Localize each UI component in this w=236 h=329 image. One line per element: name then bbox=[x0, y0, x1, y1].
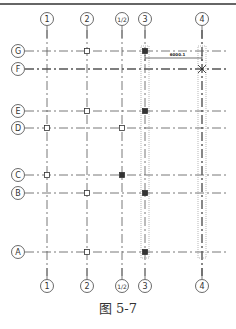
selected-column-highlight bbox=[141, 46, 206, 258]
grid-column-1: 11 bbox=[41, 13, 54, 293]
grid-row-C: C bbox=[12, 169, 227, 182]
svg-text:3: 3 bbox=[142, 15, 147, 24]
svg-text:G: G bbox=[15, 47, 21, 56]
column-marker[interactable] bbox=[45, 173, 50, 178]
svg-text:B: B bbox=[15, 189, 21, 198]
svg-text:4: 4 bbox=[199, 282, 204, 291]
grid-rows: GFEDCBA bbox=[12, 45, 227, 259]
column-marker[interactable] bbox=[143, 191, 148, 196]
svg-text:3: 3 bbox=[142, 282, 147, 291]
svg-text:1/2: 1/2 bbox=[117, 283, 127, 290]
svg-text:1: 1 bbox=[44, 282, 49, 291]
column-marker[interactable] bbox=[85, 109, 90, 114]
grid-row-D: D bbox=[12, 122, 227, 135]
svg-text:4: 4 bbox=[199, 15, 204, 24]
column-marker[interactable] bbox=[143, 250, 148, 255]
svg-text:A: A bbox=[15, 248, 21, 257]
svg-text:2: 2 bbox=[84, 282, 89, 291]
column-marker[interactable] bbox=[120, 126, 125, 131]
dimension-annotation: 6000.1 bbox=[145, 52, 202, 61]
column-marker[interactable] bbox=[85, 49, 90, 54]
svg-text:E: E bbox=[15, 107, 20, 116]
column-marker[interactable] bbox=[120, 173, 125, 178]
column-marker[interactable] bbox=[143, 49, 148, 54]
column-markers bbox=[45, 49, 148, 255]
svg-text:1: 1 bbox=[44, 15, 49, 24]
grid-row-F: F bbox=[12, 63, 227, 76]
svg-text:D: D bbox=[15, 124, 21, 133]
grid-row-G: G bbox=[12, 45, 227, 58]
svg-text:F: F bbox=[16, 65, 21, 74]
grid-row-A: A bbox=[12, 246, 227, 259]
column-marker[interactable] bbox=[85, 250, 90, 255]
column-marker[interactable] bbox=[45, 126, 50, 131]
grid-row-E: E bbox=[12, 105, 227, 118]
figure-caption: 图 5-7 bbox=[0, 298, 236, 317]
grid-column-4: 44 bbox=[196, 13, 209, 293]
svg-text:2: 2 bbox=[84, 15, 89, 24]
structural-grid-plan: 11221/21/23344 GFEDCBA 6000.1 bbox=[0, 0, 236, 329]
grid-row-B: B bbox=[12, 187, 227, 200]
svg-text:1/2: 1/2 bbox=[117, 16, 127, 23]
dimension-label: 6000.1 bbox=[170, 52, 186, 57]
column-marker[interactable] bbox=[85, 191, 90, 196]
grid-column-1-2: 1/21/2 bbox=[116, 13, 129, 293]
svg-text:C: C bbox=[15, 171, 21, 180]
column-marker[interactable] bbox=[143, 109, 148, 114]
